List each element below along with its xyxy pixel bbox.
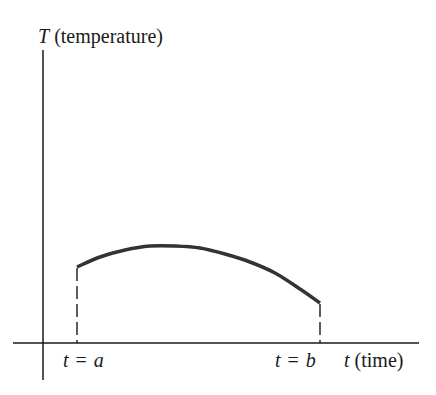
y-axis-label: T (temperature) [38, 26, 163, 46]
temperature-curve [77, 246, 320, 303]
marker-equals: = [281, 349, 306, 371]
x-axis-text: (time) [355, 349, 404, 371]
x-axis-label: t (time) [344, 350, 403, 370]
marker-var: t [63, 349, 69, 371]
marker-value: b [306, 349, 316, 371]
temperature-time-diagram [0, 0, 436, 395]
marker-label-t-a: t=a [63, 350, 104, 370]
y-axis-symbol: T [38, 25, 49, 47]
marker-equals: = [69, 349, 94, 371]
marker-var: t [275, 349, 281, 371]
x-axis-symbol: t [344, 349, 350, 371]
marker-value: a [94, 349, 104, 371]
marker-label-t-b: t=b [275, 350, 316, 370]
y-axis-text: (temperature) [54, 25, 163, 47]
